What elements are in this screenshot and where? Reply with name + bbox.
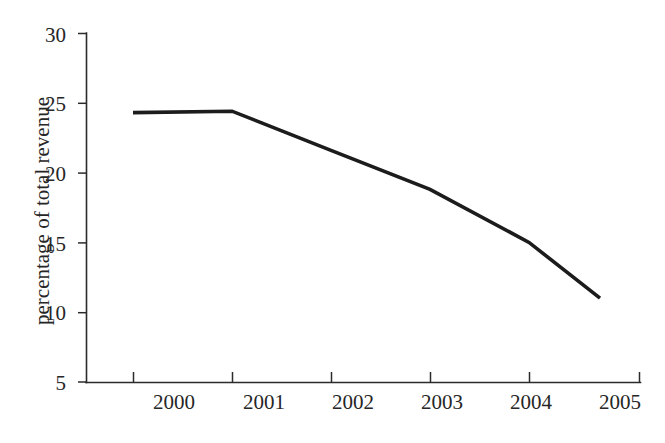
y-tick-label-5: 5: [10, 373, 66, 394]
x-tick-label-2000: 2000: [153, 392, 195, 413]
x-tick-label-2003: 2003: [421, 392, 463, 413]
x-tick-label-2005: 2005: [599, 392, 641, 413]
x-tick-label-2004: 2004: [510, 392, 552, 413]
chart-plot-area: [0, 0, 665, 443]
y-tick-label-30: 30: [10, 25, 66, 46]
x-tick-label-2002: 2002: [332, 392, 374, 413]
line-chart: 30 25 20 15 10 5 2000 2001 2002 2003 200…: [0, 0, 665, 443]
y-axis-title: percentage of total revenue: [32, 97, 53, 325]
x-tick-label-2001: 2001: [243, 392, 285, 413]
data-series-line: [133, 111, 600, 298]
